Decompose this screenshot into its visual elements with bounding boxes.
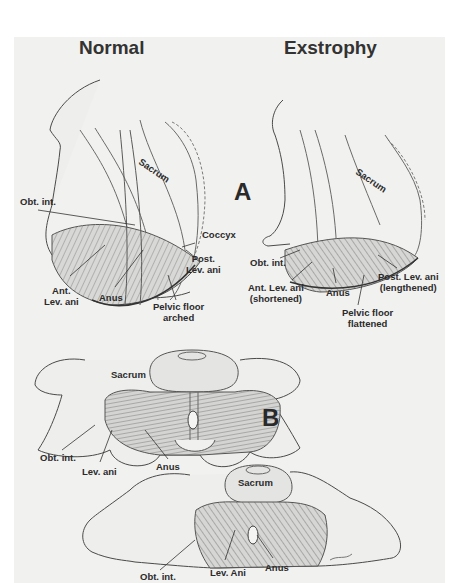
label-sacrum-exstrophy-b: Sacrum	[238, 478, 273, 489]
label-post-lev-ani-normal: Post. Lev. ani	[186, 254, 221, 275]
normal-inferior-pelvis	[35, 350, 300, 467]
label-anus-exstrophy-a: Anus	[326, 288, 350, 299]
title-normal: Normal	[79, 37, 144, 59]
label-anus-normal-a: Anus	[99, 293, 123, 304]
label-ant-lev-ani-normal: Ant. Lev. ani	[44, 286, 79, 307]
label-pelvic-floor-flattened: Pelvic floor flattened	[342, 308, 393, 329]
title-exstrophy: Exstrophy	[284, 37, 377, 59]
label-anus-normal-b: Anus	[156, 462, 180, 473]
label-ant-lev-ani-shortened: Ant. Lev. ani (shortened)	[248, 283, 304, 304]
normal-lateral-pelvis	[46, 80, 205, 305]
panel-label-b: B	[262, 404, 279, 432]
label-coccyx: Coccyx	[202, 230, 236, 241]
label-lev-ani-exstrophy-b: Lev. Ani	[210, 568, 246, 579]
label-post-lev-ani-lengthened: Post. Lev. ani (lengthened)	[378, 272, 439, 293]
label-obt-int-normal-a: Obt. int.	[20, 197, 56, 208]
label-obt-int-normal-b: Obt. int.	[40, 453, 76, 464]
label-lev-ani-normal-b: Lev. ani	[82, 467, 117, 478]
label-sacrum-normal-b: Sacrum	[111, 370, 146, 381]
label-obt-int-exstrophy-b: Obt. int.	[140, 572, 176, 583]
panel-label-a: A	[234, 178, 251, 206]
exstrophy-lateral-pelvis	[263, 100, 425, 292]
label-pelvic-floor-arched: Pelvic floor arched	[153, 302, 204, 323]
label-obt-int-exstrophy-a: Obt. int.	[250, 258, 286, 269]
label-anus-exstrophy-b: Anus	[265, 563, 289, 574]
